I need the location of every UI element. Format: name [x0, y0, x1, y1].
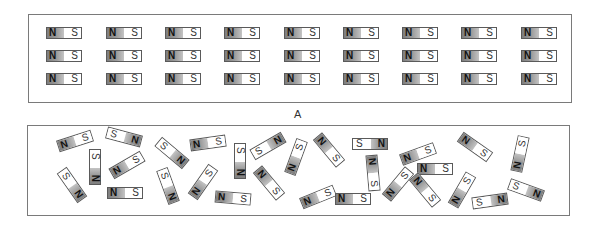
south-pole: S — [64, 74, 82, 84]
bar-magnet: NS — [106, 73, 142, 85]
north-pole: N — [166, 51, 183, 61]
bar-magnet: NS — [46, 50, 82, 62]
bar-magnet: NS — [107, 187, 143, 199]
bar-magnet: NS — [284, 50, 320, 62]
south-pole: S — [479, 74, 497, 84]
north-pole: N — [403, 74, 420, 84]
south-pole: S — [124, 74, 142, 84]
bar-magnet: NS — [402, 27, 438, 39]
south-pole: S — [90, 150, 100, 168]
south-pole: S — [183, 28, 201, 38]
bar-magnet: NS — [521, 27, 557, 39]
south-pole: S — [539, 28, 557, 38]
north-pole: N — [344, 74, 361, 84]
south-pole: S — [479, 51, 497, 61]
bar-magnet: SN — [352, 138, 388, 150]
north-pole: N — [403, 28, 420, 38]
north-pole: N — [403, 51, 420, 61]
north-pole: N — [108, 188, 125, 198]
north-pole: N — [235, 162, 245, 179]
bar-magnet: NS — [343, 73, 379, 85]
south-pole: S — [242, 28, 260, 38]
north-pole: N — [225, 51, 242, 61]
south-pole: S — [64, 28, 82, 38]
south-pole: S — [368, 172, 379, 190]
north-pole: N — [462, 28, 479, 38]
bar-magnet: NS — [521, 50, 557, 62]
south-pole: S — [420, 28, 438, 38]
south-pole: S — [361, 28, 379, 38]
north-pole: N — [285, 51, 302, 61]
south-pole: S — [539, 74, 557, 84]
south-pole: S — [242, 74, 260, 84]
south-pole: S — [124, 51, 142, 61]
north-pole: N — [90, 168, 100, 185]
south-pole: S — [539, 51, 557, 61]
north-pole: N — [336, 194, 353, 204]
bar-magnet: NS — [335, 193, 371, 205]
north-pole: N — [47, 28, 64, 38]
north-pole: N — [344, 28, 361, 38]
south-pole: S — [183, 51, 201, 61]
bar-magnet: SN — [89, 149, 101, 185]
south-pole: S — [242, 51, 260, 61]
bar-magnet: NS — [224, 73, 260, 85]
north-pole: N — [285, 28, 302, 38]
north-pole: N — [47, 74, 64, 84]
bar-magnet: NS — [417, 163, 453, 175]
bar-magnet: NS — [284, 73, 320, 85]
bar-magnet: NS — [461, 50, 497, 62]
bar-magnet: NS — [46, 73, 82, 85]
south-pole: S — [420, 51, 438, 61]
bar-magnet: NS — [461, 73, 497, 85]
north-pole: N — [225, 74, 242, 84]
bar-magnet: NS — [224, 27, 260, 39]
north-pole: N — [522, 28, 539, 38]
bar-magnet: NS — [106, 27, 142, 39]
north-pole: N — [47, 51, 64, 61]
bar-magnet: NS — [165, 73, 201, 85]
north-pole: N — [462, 74, 479, 84]
north-pole: N — [285, 74, 302, 84]
south-pole: S — [420, 74, 438, 84]
south-pole: S — [302, 51, 320, 61]
south-pole: S — [361, 74, 379, 84]
bar-magnet: NS — [106, 50, 142, 62]
south-pole: S — [361, 51, 379, 61]
south-pole: S — [124, 28, 142, 38]
south-pole: S — [235, 144, 245, 162]
north-pole: N — [512, 153, 525, 171]
bar-magnet: NS — [461, 27, 497, 39]
north-pole: N — [225, 28, 242, 38]
bar-magnet: NS — [343, 50, 379, 62]
north-pole: N — [522, 74, 539, 84]
south-pole: S — [183, 74, 201, 84]
north-pole: N — [490, 194, 508, 206]
north-pole: N — [371, 139, 388, 149]
south-pole: S — [353, 194, 371, 204]
south-pole: S — [207, 136, 226, 148]
south-pole: S — [232, 193, 250, 204]
north-pole: N — [166, 28, 183, 38]
north-pole: N — [367, 156, 378, 173]
south-pole: S — [302, 74, 320, 84]
north-pole: N — [522, 51, 539, 61]
bar-magnet: NS — [165, 50, 201, 62]
south-pole: S — [64, 51, 82, 61]
south-pole: S — [435, 164, 453, 174]
south-pole: S — [302, 28, 320, 38]
north-pole: N — [344, 51, 361, 61]
bar-magnet: NS — [165, 27, 201, 39]
panel-label: A — [294, 108, 301, 120]
north-pole: N — [418, 164, 435, 174]
bar-magnet: NS — [224, 50, 260, 62]
bar-magnet: NS — [402, 50, 438, 62]
south-pole: S — [515, 136, 528, 155]
north-pole: N — [107, 28, 124, 38]
south-pole: S — [353, 139, 371, 149]
north-pole: N — [216, 192, 233, 203]
bar-magnet: NS — [521, 73, 557, 85]
north-pole: N — [107, 74, 124, 84]
bar-magnet: SN — [234, 143, 246, 179]
south-pole: S — [472, 196, 491, 208]
